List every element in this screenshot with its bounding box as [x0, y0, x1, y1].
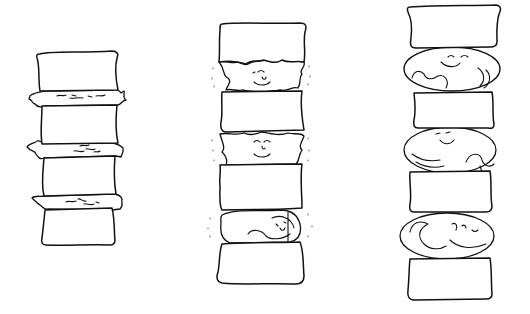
middle-disc-1	[219, 60, 304, 92]
right-vertebra-3	[410, 171, 492, 212]
right-vertebra-1	[407, 5, 500, 48]
middle-vertebra-1	[219, 23, 306, 64]
spine-illustration	[0, 0, 530, 314]
right-vertebra-2	[414, 92, 494, 128]
middle-disc-2	[220, 132, 304, 165]
left-spine	[27, 51, 126, 245]
middle-spine	[208, 23, 312, 284]
right-vertebra-4	[408, 258, 492, 300]
right-disc-2	[404, 127, 496, 173]
right-spine	[400, 5, 501, 300]
left-vertebra-2	[41, 105, 118, 144]
left-vertebra-1	[37, 51, 118, 91]
right-disc-1	[404, 47, 500, 91]
left-vertebra-4	[42, 208, 115, 245]
middle-vertebra-2	[221, 91, 304, 132]
left-vertebra-3	[42, 156, 116, 196]
middle-vertebra-4	[217, 242, 304, 284]
right-disc-3	[400, 213, 494, 259]
middle-vertebra-3	[220, 164, 302, 210]
